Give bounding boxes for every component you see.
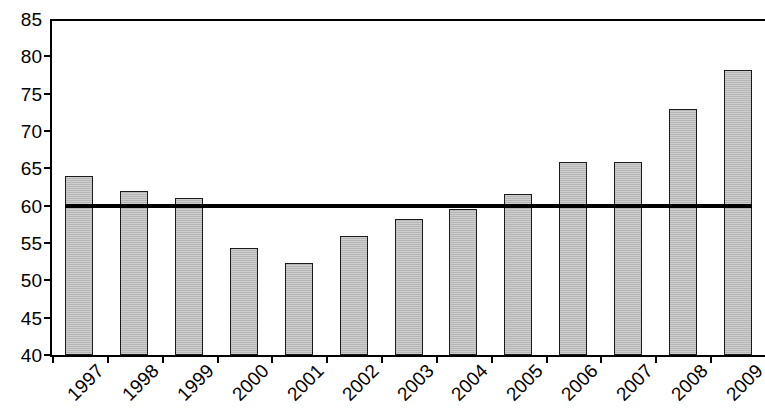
x-axis-tick-label-text: 2001 bbox=[283, 360, 328, 405]
bar bbox=[669, 109, 697, 355]
x-axis-tick-label-text: 2007 bbox=[612, 360, 657, 405]
x-axis-tick-mark bbox=[107, 355, 109, 363]
bar bbox=[724, 70, 752, 355]
x-axis-tick-mark bbox=[546, 355, 548, 363]
x-axis-tick-label-text: 1998 bbox=[118, 360, 163, 405]
x-axis-tick-label-text: 2000 bbox=[228, 360, 273, 405]
x-axis-tick-mark bbox=[326, 355, 328, 363]
y-axis-tick-label: 55 bbox=[21, 234, 42, 253]
y-axis-tick-mark bbox=[44, 242, 51, 244]
bar bbox=[559, 162, 587, 355]
x-axis-tick-mark bbox=[381, 355, 383, 363]
x-axis-tick-mark bbox=[217, 355, 219, 363]
y-axis-tick-label: 50 bbox=[21, 271, 42, 290]
x-axis-tick-label-text: 2008 bbox=[667, 360, 712, 405]
x-axis-tick-label-text: 1999 bbox=[173, 360, 218, 405]
y-axis-tick-mark bbox=[44, 93, 51, 95]
y-axis-tick-label: 85 bbox=[21, 10, 42, 29]
x-axis-tick-label-text: 1997 bbox=[64, 360, 109, 405]
y-axis-tick-mark bbox=[44, 354, 51, 356]
y-axis-tick-mark bbox=[44, 167, 51, 169]
x-axis-tick-label-text: 2006 bbox=[557, 360, 602, 405]
bar bbox=[120, 191, 148, 355]
y-axis-tick-label: 80 bbox=[21, 47, 42, 66]
y-axis-tick-mark bbox=[44, 205, 51, 207]
x-axis-tick-mark bbox=[710, 355, 712, 363]
y-axis-tick-label: 65 bbox=[21, 159, 42, 178]
y-axis-tick-label: 75 bbox=[21, 84, 42, 103]
y-axis-tick-label: 40 bbox=[21, 346, 42, 365]
y-axis-tick-mark bbox=[44, 55, 51, 57]
bar bbox=[614, 162, 642, 355]
x-axis-tick-label-text: 2003 bbox=[393, 360, 438, 405]
x-axis-tick-mark bbox=[600, 355, 602, 363]
x-axis-tick-mark bbox=[436, 355, 438, 363]
y-axis-tick-mark bbox=[44, 130, 51, 132]
x-axis-tick-label-text: 2005 bbox=[502, 360, 547, 405]
x-axis-tick-label-text: 2004 bbox=[447, 360, 492, 405]
x-axis-tick-mark bbox=[162, 355, 164, 363]
reference-line bbox=[65, 204, 751, 208]
bar-chart: 40455055606570758085 1997199819992000200… bbox=[0, 0, 765, 408]
x-axis-tick-mark bbox=[52, 355, 54, 363]
y-axis-tick-label: 45 bbox=[21, 308, 42, 327]
y-axis-tick-label: 60 bbox=[21, 196, 42, 215]
x-axis-tick-label-text: 2009 bbox=[722, 360, 765, 405]
x-axis-tick-mark bbox=[271, 355, 273, 363]
x-axis-tick-label-text: 2002 bbox=[338, 360, 383, 405]
plot-area bbox=[52, 19, 765, 355]
y-axis-tick-label: 70 bbox=[21, 122, 42, 141]
y-axis-tick-mark bbox=[44, 279, 51, 281]
y-axis-tick-mark bbox=[44, 317, 51, 319]
x-axis-tick-mark bbox=[491, 355, 493, 363]
x-axis-tick-mark bbox=[655, 355, 657, 363]
